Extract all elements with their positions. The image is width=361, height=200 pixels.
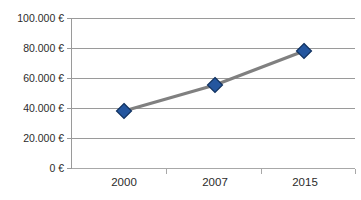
data-point-2015[interactable] — [297, 44, 312, 59]
series-overlay — [0, 0, 361, 200]
data-point-2007[interactable] — [208, 78, 223, 93]
chart-container: 100.000 € 80.000 € 60.000 € 40.000 € 20.… — [0, 0, 361, 200]
data-point-2000[interactable] — [117, 104, 132, 119]
